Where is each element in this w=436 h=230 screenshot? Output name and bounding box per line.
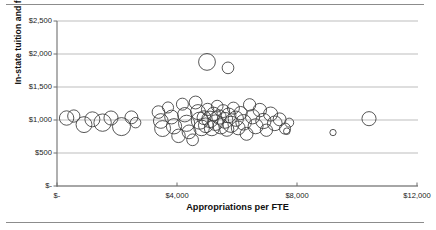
bubble-marker bbox=[330, 129, 336, 135]
y-tick-label: $1,000 bbox=[6, 116, 52, 124]
x-axis-title: Appropriations per FTE bbox=[57, 202, 418, 212]
bubble-series bbox=[59, 54, 376, 146]
bubble-marker bbox=[76, 117, 92, 133]
x-tick-label: $- bbox=[27, 191, 87, 200]
x-tick-label: $12,000 bbox=[387, 191, 436, 200]
x-tick-label: $4,000 bbox=[147, 191, 207, 200]
x-tick-label: $8,000 bbox=[267, 191, 327, 200]
bubble-marker bbox=[285, 118, 294, 127]
bubble-marker bbox=[187, 134, 199, 146]
bubble-marker bbox=[94, 114, 111, 131]
y-tick-label: $2,000 bbox=[6, 50, 52, 58]
y-tick-label: $2,500 bbox=[6, 17, 52, 25]
bubble-marker bbox=[204, 121, 219, 136]
bubble-marker bbox=[85, 112, 100, 127]
bubble-marker bbox=[199, 54, 216, 71]
bubble-marker bbox=[222, 62, 234, 74]
y-axis-tick-labels: $-$500$1,000$1,500$2,000$2,500 bbox=[4, 0, 52, 200]
bubble-marker bbox=[189, 96, 202, 109]
y-tick-label: $500 bbox=[6, 149, 52, 157]
y-tick-label: $- bbox=[6, 182, 52, 190]
bubble-marker bbox=[59, 111, 73, 125]
y-tick-label: $1,500 bbox=[6, 83, 52, 91]
bubble-marker bbox=[243, 99, 255, 111]
bubble-marker bbox=[362, 112, 376, 126]
